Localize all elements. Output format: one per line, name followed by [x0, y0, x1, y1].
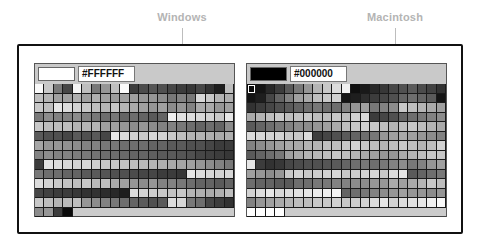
color-swatch[interactable] — [380, 84, 389, 94]
color-swatch[interactable] — [285, 160, 294, 170]
color-swatch[interactable] — [304, 151, 313, 161]
color-swatch[interactable] — [168, 84, 177, 94]
color-swatch[interactable] — [389, 198, 398, 208]
color-swatch[interactable] — [225, 141, 234, 151]
color-swatch[interactable] — [111, 198, 120, 208]
color-swatch[interactable] — [82, 94, 91, 104]
color-swatch[interactable] — [120, 94, 129, 104]
color-swatch[interactable] — [275, 160, 284, 170]
color-swatch[interactable] — [82, 122, 91, 132]
color-swatch[interactable] — [427, 132, 436, 142]
color-swatch[interactable] — [196, 122, 205, 132]
color-swatch[interactable] — [389, 122, 398, 132]
color-swatch[interactable] — [206, 170, 215, 180]
color-swatch[interactable] — [149, 189, 158, 199]
color-swatch[interactable] — [92, 84, 101, 94]
color-swatch[interactable] — [285, 132, 294, 142]
color-swatch[interactable] — [82, 170, 91, 180]
color-swatch[interactable] — [158, 122, 167, 132]
color-swatch[interactable] — [285, 170, 294, 180]
color-swatch[interactable] — [54, 141, 63, 151]
color-swatch[interactable] — [158, 179, 167, 189]
color-swatch[interactable] — [427, 179, 436, 189]
color-swatch[interactable] — [275, 189, 284, 199]
color-swatch[interactable] — [266, 132, 275, 142]
color-swatch[interactable] — [168, 103, 177, 113]
color-swatch[interactable] — [418, 198, 427, 208]
color-swatch[interactable] — [177, 198, 186, 208]
color-swatch[interactable] — [323, 189, 332, 199]
color-swatch[interactable] — [168, 141, 177, 151]
color-swatch[interactable] — [187, 160, 196, 170]
color-swatch[interactable] — [177, 103, 186, 113]
color-swatch[interactable] — [196, 160, 205, 170]
color-swatch[interactable] — [380, 151, 389, 161]
color-swatch[interactable] — [63, 103, 72, 113]
color-swatch[interactable] — [304, 170, 313, 180]
color-swatch[interactable] — [247, 198, 256, 208]
color-swatch[interactable] — [187, 84, 196, 94]
color-swatch[interactable] — [427, 198, 436, 208]
color-swatch[interactable] — [256, 170, 265, 180]
color-swatch[interactable] — [361, 151, 370, 161]
color-swatch[interactable] — [225, 94, 234, 104]
color-swatch[interactable] — [101, 132, 110, 142]
color-swatch[interactable] — [92, 170, 101, 180]
color-swatch[interactable] — [101, 113, 110, 123]
color-swatch[interactable] — [323, 179, 332, 189]
color-swatch[interactable] — [389, 179, 398, 189]
color-swatch[interactable] — [130, 141, 139, 151]
color-swatch[interactable] — [247, 132, 256, 142]
color-swatch[interactable] — [35, 84, 44, 94]
color-swatch[interactable] — [275, 198, 284, 208]
color-swatch[interactable] — [351, 132, 360, 142]
color-swatch[interactable] — [427, 141, 436, 151]
color-swatch[interactable] — [168, 198, 177, 208]
color-swatch[interactable] — [389, 170, 398, 180]
color-swatch[interactable] — [35, 189, 44, 199]
color-swatch[interactable] — [196, 170, 205, 180]
color-swatch[interactable] — [332, 132, 341, 142]
color-swatch[interactable] — [408, 170, 417, 180]
color-swatch[interactable] — [54, 179, 63, 189]
color-swatch[interactable] — [130, 103, 139, 113]
color-swatch[interactable] — [101, 179, 110, 189]
color-swatch[interactable] — [101, 94, 110, 104]
color-swatch[interactable] — [437, 170, 446, 180]
color-swatch[interactable] — [370, 198, 379, 208]
color-swatch[interactable] — [256, 189, 265, 199]
color-swatch[interactable] — [304, 132, 313, 142]
color-swatch[interactable] — [215, 132, 224, 142]
color-swatch[interactable] — [294, 170, 303, 180]
hex-value-field[interactable]: #000000 — [290, 66, 347, 82]
color-swatch[interactable] — [44, 84, 53, 94]
color-swatch[interactable] — [73, 179, 82, 189]
color-swatch[interactable] — [177, 94, 186, 104]
color-swatch[interactable] — [196, 198, 205, 208]
color-swatch[interactable] — [139, 122, 148, 132]
color-swatch[interactable] — [130, 160, 139, 170]
color-swatch[interactable] — [351, 189, 360, 199]
color-swatch[interactable] — [177, 179, 186, 189]
color-swatch[interactable] — [304, 179, 313, 189]
color-swatch[interactable] — [418, 94, 427, 104]
color-swatch[interactable] — [92, 189, 101, 199]
color-swatch[interactable] — [418, 141, 427, 151]
color-swatch[interactable] — [247, 103, 256, 113]
color-swatch[interactable] — [187, 132, 196, 142]
color-swatch[interactable] — [215, 179, 224, 189]
color-swatch[interactable] — [437, 160, 446, 170]
color-swatch[interactable] — [342, 179, 351, 189]
color-swatch[interactable] — [54, 132, 63, 142]
color-swatch[interactable] — [399, 151, 408, 161]
color-swatch[interactable] — [294, 160, 303, 170]
color-swatch[interactable] — [111, 189, 120, 199]
color-swatch[interactable] — [35, 103, 44, 113]
color-swatch[interactable] — [323, 132, 332, 142]
color-swatch[interactable] — [168, 160, 177, 170]
color-swatch[interactable] — [408, 151, 417, 161]
color-swatch[interactable] — [101, 122, 110, 132]
color-swatch[interactable] — [294, 122, 303, 132]
color-swatch[interactable] — [187, 170, 196, 180]
color-swatch[interactable] — [313, 84, 322, 94]
